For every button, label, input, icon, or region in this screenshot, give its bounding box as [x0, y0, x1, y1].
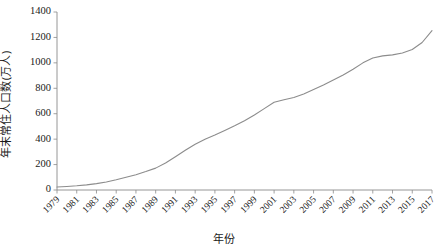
x-tick-label: 2011 [357, 194, 377, 214]
x-tick-label: 2005 [297, 194, 318, 215]
x-tick-label: 2003 [278, 194, 299, 215]
x-tick-label: 2013 [376, 194, 397, 215]
x-tick-label: 1983 [80, 194, 101, 215]
x-tick-label: 2015 [396, 194, 417, 215]
y-tick-label: 1000 [30, 56, 51, 67]
y-tick-label: 400 [35, 133, 51, 144]
line-chart: 0200400600800100012001400 19791981198319… [0, 0, 439, 250]
x-tick-label: 2009 [337, 194, 358, 215]
x-tick-label: 2001 [258, 194, 279, 215]
x-tick-label: 1989 [140, 194, 161, 215]
x-tick-label: 1999 [238, 194, 259, 215]
x-tick-label: 1993 [179, 194, 200, 215]
y-tick-label: 1200 [30, 31, 51, 42]
x-tick-label: 1985 [100, 194, 121, 215]
series-line-年末常住人口数 [57, 31, 432, 187]
x-tick-label: 1979 [41, 194, 62, 215]
y-tick-label: 600 [35, 107, 51, 118]
y-axis: 0200400600800100012001400 [30, 5, 57, 194]
y-tick-label: 200 [35, 158, 51, 169]
x-tick-label: 1987 [120, 194, 141, 215]
x-axis: 1979198119831985198719891991199319951997… [41, 190, 437, 215]
x-tick-label: 2017 [416, 194, 437, 215]
x-tick-label: 1991 [159, 194, 180, 215]
y-tick-label: 0 [46, 183, 51, 194]
x-tick-label: 2007 [317, 194, 338, 215]
x-tick-label: 1981 [61, 194, 82, 215]
data-series [57, 31, 432, 187]
x-tick-label: 1995 [199, 194, 220, 215]
x-tick-label: 1997 [219, 194, 240, 215]
y-tick-label: 1400 [30, 5, 51, 16]
x-axis-title: 年份 [213, 232, 235, 246]
chart-canvas: 0200400600800100012001400 19791981198319… [0, 0, 439, 250]
y-tick-label: 800 [35, 82, 51, 93]
y-axis-title: 年末常住人口数(万人) [0, 50, 13, 158]
